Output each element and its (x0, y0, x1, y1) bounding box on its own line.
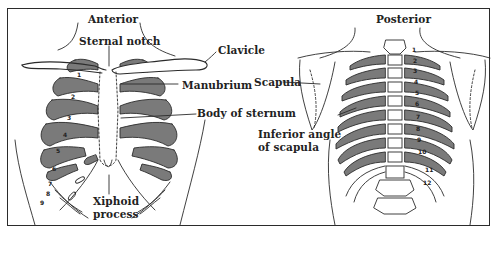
anterior-rib-number: 3 (67, 114, 71, 121)
posterior-rib-number: 10 (418, 148, 426, 155)
posterior-rib-number: 3 (413, 67, 417, 74)
anterior-rib-number: 1 (77, 71, 81, 78)
anterior-rib-number: 8 (46, 190, 50, 197)
posterior-rib-number: 1 (412, 46, 416, 53)
anterior-rib-number: 2 (71, 93, 75, 100)
label-scapula: Scapula (254, 76, 301, 88)
posterior-rib-number: 6 (415, 100, 419, 107)
posterior-view (283, 28, 490, 225)
label-inferior-angle-line1: Inferior angle (258, 128, 341, 140)
label-xiphoid-line2: process (93, 208, 138, 220)
posterior-rib-number: 4 (414, 78, 418, 85)
anterior-view-title: Anterior (88, 13, 138, 25)
anterior-rib-number: 5 (56, 147, 60, 154)
posterior-rib-number: 2 (413, 57, 417, 64)
label-clavicle: Clavicle (218, 44, 265, 56)
anterior-rib-number: 7 (48, 180, 52, 187)
label-inferior-angle-line2: of scapula (258, 141, 319, 153)
posterior-rib-number: 11 (425, 166, 433, 173)
label-body-of-sternum: Body of sternum (197, 107, 296, 119)
anterior-rib-number: 4 (63, 131, 67, 138)
posterior-rib-number: 7 (416, 113, 420, 120)
posterior-view-title: Posterior (376, 13, 431, 25)
label-sternal-notch: Sternal notch (79, 35, 161, 47)
posterior-rib-number: 9 (417, 136, 421, 143)
posterior-rib-number: 5 (415, 89, 419, 96)
anterior-rib-number: 6 (52, 165, 56, 172)
label-xiphoid-line1: Xiphoid (93, 195, 139, 207)
label-manubrium: Manubrium (182, 79, 252, 91)
posterior-rib-number: 12 (423, 179, 431, 186)
anterior-rib-number: 9 (40, 199, 44, 206)
thorax-illustration (0, 0, 497, 253)
posterior-rib-number: 8 (416, 125, 420, 132)
